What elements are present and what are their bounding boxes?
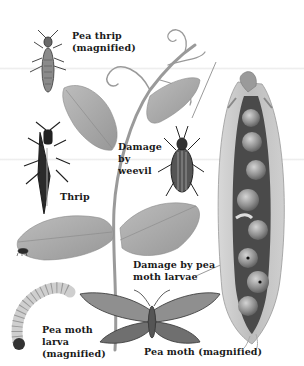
pea-and-bean-weevil — [158, 126, 204, 196]
leaf-lower-left — [17, 216, 113, 260]
label-damage-by-pea-moth-larvae: Damage by pea moth larvae — [133, 259, 215, 283]
label-pea-moth: Pea moth (magnified) — [144, 346, 262, 358]
leaf-upper-left — [63, 85, 117, 150]
small-weevil-on-leaf — [17, 249, 28, 257]
label-damage-by-weevil: Damage by weevil — [118, 141, 162, 177]
pea-thrip-magnified — [30, 30, 66, 92]
pea-pod — [218, 72, 284, 350]
pea-pests-figure: Pea thrip (magnified) Damage by weevil T… — [0, 0, 304, 366]
leaf-lower-right — [120, 203, 200, 256]
label-pea-moth-larva: Pea moth larva (magnified) — [42, 324, 106, 360]
label-thrip: Thrip — [60, 191, 90, 203]
label-pea-thrip: Pea thrip (magnified) — [72, 30, 136, 54]
illustration — [0, 0, 304, 366]
